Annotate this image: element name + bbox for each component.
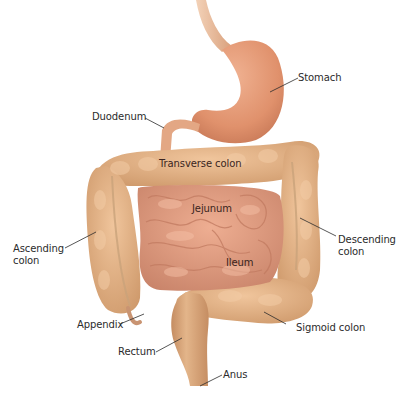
small-intestine bbox=[138, 185, 284, 291]
anatomy-illustration bbox=[0, 0, 401, 398]
label-appendix: Appendix bbox=[77, 319, 123, 331]
label-stomach: Stomach bbox=[298, 72, 341, 84]
label-descending-colon: Descending colon bbox=[338, 234, 396, 258]
esophagus bbox=[196, 0, 232, 52]
rectum bbox=[171, 292, 208, 386]
digestive-system-diagram: Stomach Duodenum Transverse colon Jejunu… bbox=[0, 0, 401, 398]
descending-colon bbox=[278, 145, 321, 300]
label-transverse-colon: Transverse colon bbox=[159, 158, 241, 170]
label-rectum: Rectum bbox=[118, 346, 156, 358]
label-sigmoid-colon: Sigmoid colon bbox=[296, 322, 365, 334]
label-anus: Anus bbox=[223, 369, 247, 381]
label-duodenum: Duodenum bbox=[92, 111, 146, 123]
label-ileum: Ileum bbox=[226, 257, 253, 269]
label-jejunum: Jejunum bbox=[192, 203, 232, 215]
appendix bbox=[128, 308, 140, 323]
label-ascending-colon: Ascending colon bbox=[13, 243, 64, 267]
